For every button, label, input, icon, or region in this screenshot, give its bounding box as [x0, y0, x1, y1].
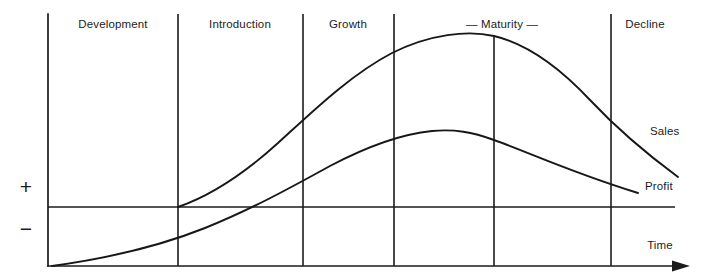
stage-label-growth: Growth — [329, 18, 367, 30]
stage-label-maturity: — Maturity — — [466, 18, 538, 30]
stage-label-decline: Decline — [625, 18, 664, 30]
product-life-cycle-diagram: Development Introduction Growth — Maturi… — [0, 0, 703, 275]
stage-label-development: Development — [78, 18, 148, 30]
profit-curve — [52, 130, 638, 266]
sales-curve-label: Sales — [650, 125, 680, 137]
time-axis-label: Time — [647, 239, 673, 251]
stage-label-introduction: Introduction — [209, 18, 271, 30]
positive-sign-label: + — [20, 175, 32, 198]
profit-curve-label: Profit — [645, 180, 673, 192]
plc-chart-canvas: Development Introduction Growth — Maturi… — [0, 0, 703, 275]
time-arrow-head — [672, 261, 690, 272]
negative-sign-label: − — [20, 217, 32, 240]
